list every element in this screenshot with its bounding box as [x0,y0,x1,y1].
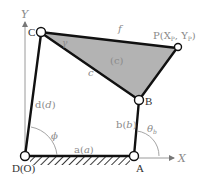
label-link-c: c [88,67,94,78]
label-coupler-angle: γ [62,38,68,48]
label-joint-c: C [28,26,35,38]
joint-p [175,44,182,51]
joint-a [130,152,139,161]
label-joint-a: A [136,162,144,174]
label-coupler: (c) [110,55,124,66]
joint-c [37,28,46,37]
label-link-b: b(b) [116,119,137,130]
label-link-f: f [117,23,124,34]
label-link-a: a(a) [74,144,94,155]
label-point-p: P(XP, YP) [153,30,196,42]
y-axis-label: Y [21,8,30,21]
joint-b [135,96,144,105]
label-link-d: d(d) [35,99,56,110]
ground-hatching [30,157,130,165]
label-angle-phi: ϕ [51,130,58,141]
label-angle-theta-b: θb [147,123,157,135]
label-joint-b: B [145,95,152,107]
label-joint-d: D(O) [12,162,36,175]
x-axis-label: X [177,152,187,165]
joint-d [21,152,30,161]
four-bar-linkage-diagram: Y X C B A D(O) P(XP, YP) f c (c) γ d(d) … [0,0,209,181]
link-d [25,34,41,156]
coupler-triangle [40,32,177,100]
